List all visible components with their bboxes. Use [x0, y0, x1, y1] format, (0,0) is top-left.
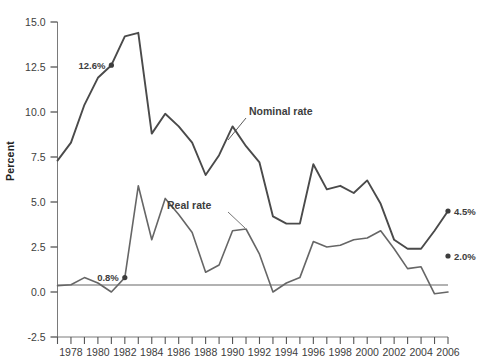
x-tick-label: 1982 [113, 346, 137, 358]
x-tick-label: 1986 [167, 346, 191, 358]
x-tick-label: 1996 [302, 346, 326, 358]
real-2006-label-marker [445, 253, 450, 258]
nominal-2006-label-marker [445, 208, 450, 213]
nominal-1981-label: 12.6% [78, 60, 105, 71]
x-tick-label: 2002 [382, 346, 406, 358]
real-1982-label: 0.8% [97, 272, 119, 283]
y-tick-label: 5.0 [31, 196, 46, 208]
nominal-rate-label: Nominal rate [249, 105, 313, 117]
x-axis-ticks [58, 337, 449, 344]
real-1982-label-marker [122, 275, 127, 280]
x-tick-label: 1978 [59, 346, 83, 358]
y-tick-label: 7.5 [31, 151, 46, 163]
line-chart-plot: 15.012.510.07.55.02.50.0-2.5 19781980198… [0, 0, 486, 363]
series-line-nominal-rate [58, 33, 449, 249]
x-tick-label: 2006 [436, 346, 460, 358]
y-tick-label: -2.5 [27, 331, 45, 343]
y-tick-label: 10.0 [25, 106, 46, 118]
nominal-1981-label-marker [109, 63, 114, 68]
y-tick-label: 15.0 [25, 16, 46, 28]
x-tick-label: 1980 [86, 346, 110, 358]
chart-container: Percent 15.012.510.07.55.02.50.0-2.5 197… [0, 0, 486, 363]
y-tick-label: 2.5 [31, 241, 46, 253]
y-axis-ticks: 15.012.510.07.55.02.50.0-2.5 [25, 16, 57, 343]
real-2006-label: 2.0% [454, 251, 476, 262]
x-tick-label: 1984 [140, 346, 164, 358]
x-tick-label: 1990 [221, 346, 245, 358]
x-tick-label: 1994 [275, 346, 299, 358]
x-tick-label: 1988 [194, 346, 218, 358]
x-tick-label: 1992 [248, 346, 272, 358]
x-tick-label: 2004 [409, 346, 433, 358]
x-axis-tick-labels: 1978198019821984198619881990199219941996… [59, 346, 460, 358]
real-rate-leader-line [228, 212, 245, 228]
y-tick-label: 0.0 [31, 286, 46, 298]
x-tick-label: 1998 [329, 346, 353, 358]
nominal-2006-label: 4.5% [454, 206, 476, 217]
x-tick-label: 2000 [356, 346, 380, 358]
real-rate-label: Real rate [167, 199, 212, 211]
y-tick-label: 12.5 [25, 61, 46, 73]
